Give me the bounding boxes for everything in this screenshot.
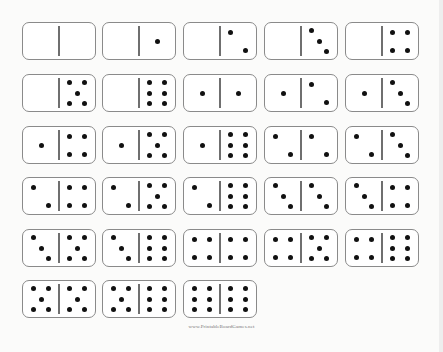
pip-dot [111,235,116,240]
domino-0-4 [345,22,419,60]
right-half [301,23,337,59]
pip-dot [243,286,248,291]
pip-dot [317,194,322,199]
pip-dot [228,132,233,137]
pip-dot [309,82,314,87]
pip-dot [46,256,51,261]
left-half [265,178,301,214]
pip-dot [281,91,286,96]
domino-1-3 [345,74,419,112]
domino-divider [58,181,60,211]
domino-divider [138,78,140,108]
pip-dot [288,204,293,209]
pip-dot [390,132,395,137]
left-half [346,178,382,214]
pip-dot [405,203,410,208]
pip-dot [39,297,44,302]
left-half [103,75,139,111]
right-half [59,178,95,214]
domino-1-6 [183,126,257,164]
left-half [265,75,301,111]
pip-dot [362,194,367,199]
pip-dot [162,91,167,96]
right-half [59,230,95,266]
pip-dot [155,143,160,148]
pip-dot [192,255,197,260]
pip-dot [324,49,329,54]
pip-dot [390,246,395,251]
pip-dot [119,143,124,148]
pip-dot [390,80,395,85]
pip-dot [243,194,248,199]
pip-dot [228,255,233,260]
pip-dot [207,237,212,242]
domino-divider [300,26,302,56]
right-half [220,127,256,163]
pip-dot [31,185,36,190]
domino-divider [300,130,302,160]
left-half [23,230,59,266]
pip-dot [405,101,410,106]
left-half [23,178,59,214]
domino-1-5 [102,126,176,164]
left-half [23,23,59,59]
pip-dot [111,286,116,291]
pip-dot [309,256,314,261]
left-half [346,23,382,59]
domino-divider [381,233,383,263]
domino-2-5 [102,177,176,215]
pip-dot [288,152,293,157]
right-half [139,75,175,111]
right-half [301,178,337,214]
pip-dot [67,203,72,208]
pip-dot [162,80,167,85]
pip-dot [67,286,72,291]
pip-dot [147,286,152,291]
domino-divider [138,284,140,314]
domino-divider [58,78,60,108]
pip-dot [390,203,395,208]
pip-dot [46,307,51,312]
pip-dot [354,134,359,139]
pip-dot [82,134,87,139]
left-half [103,178,139,214]
right-half [139,281,175,317]
pip-dot [67,256,72,261]
pip-dot [126,286,131,291]
domino-4-4 [183,229,257,267]
pip-dot [46,203,51,208]
pip-dot [309,28,314,33]
pip-dot [228,237,233,242]
pip-dot [324,235,329,240]
right-half [220,75,256,111]
pip-dot [243,307,248,312]
pip-dot [207,255,212,260]
pip-dot [281,194,286,199]
pip-dot [243,204,248,209]
left-half [184,281,220,317]
pip-dot [67,235,72,240]
right-half [382,75,418,111]
pip-dot [309,134,314,139]
left-half [265,230,301,266]
domino-4-5 [264,229,338,267]
left-half [103,230,139,266]
domino-5-6 [102,280,176,318]
left-half [103,23,139,59]
pip-dot [362,91,367,96]
pip-dot [147,235,152,240]
left-half [23,127,59,163]
pip-dot [405,246,410,251]
pip-dot [126,256,131,261]
domino-divider [381,78,383,108]
domino-divider [219,284,221,314]
pip-dot [354,183,359,188]
pip-dot [405,185,410,190]
pip-dot [369,237,374,242]
domino-4-6 [345,229,419,267]
pip-dot [390,48,395,53]
right-half [59,75,95,111]
pip-dot [243,297,248,302]
pip-dot [243,255,248,260]
pip-dot [405,256,410,261]
